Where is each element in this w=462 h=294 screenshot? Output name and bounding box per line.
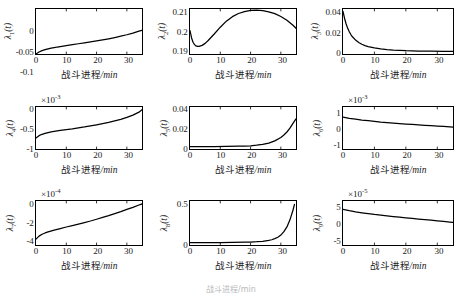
x-tick-label: 20 (247, 247, 256, 256)
y-axis-label-7: λ7(t) (6, 215, 17, 231)
x-tick-label: 10 (216, 151, 225, 160)
y-tick-label: 0.2 (177, 27, 188, 36)
plot-svg-6 (343, 107, 453, 149)
y-axis-exponent-4: ×10-3 (41, 94, 61, 105)
x-tick-label: 30 (278, 151, 287, 160)
x-tick-label: 30 (124, 151, 133, 160)
plot-svg-8 (190, 201, 296, 245)
data-curve-7 (36, 204, 142, 239)
plot-area-3: 0.04 0.02 0 0 10 20 30 (342, 8, 454, 55)
x-tick-label: 10 (371, 56, 380, 65)
y-tick-label: 0 (29, 105, 33, 114)
y-tick-label: 0 (29, 27, 33, 36)
data-curve-3 (343, 11, 453, 51)
x-tick-label: 0 (188, 247, 193, 256)
y-axis-label-5: λ5(t) (160, 120, 171, 136)
chart-panel-8: 0.5 0 0 10 20 30 λ8(t) 战斗进程/min (154, 180, 304, 294)
x-tick-label: 0 (341, 56, 346, 65)
plot-area-4: 0 -0.5 -1 0 10 20 30 (35, 106, 143, 150)
x-tick-label: 0 (34, 247, 39, 256)
plot-svg-5 (190, 107, 296, 149)
x-tick-label: 10 (216, 56, 225, 65)
y-axis-label-6: λ6(t) (313, 120, 324, 136)
data-curve-4 (36, 110, 142, 138)
y-tick-label: 0.04 (173, 105, 188, 114)
y-tick-label: -0.05 (16, 47, 34, 56)
x-tick-label: 10 (371, 247, 380, 256)
y-tick-label: 0 (336, 220, 340, 229)
x-tick-label: 20 (247, 56, 256, 65)
y-axis-label-8: λ8(t) (160, 215, 171, 231)
y-tick-label: -4 (26, 237, 33, 246)
x-axis-label-9: 战斗进程/min (370, 261, 427, 272)
y-tick-label: 0.02 (173, 125, 188, 134)
data-curve-1 (36, 30, 142, 54)
plot-svg-9 (343, 201, 453, 245)
x-axis-label-8: 战斗进程/min (215, 261, 272, 272)
chart-panel-4: 0 -0.5 -1 0 10 20 30 ×10-3 λ4(t) 战斗进程/mi… (0, 88, 154, 180)
y-tick-label: -1 (26, 145, 33, 154)
y-tick-label: 0.04 (326, 7, 341, 16)
x-tick-label: 10 (371, 151, 380, 160)
x-tick-label: 20 (93, 247, 102, 256)
x-tick-label: 30 (435, 151, 444, 160)
x-axis-label-5: 战斗进程/min (215, 165, 272, 176)
x-axis-label-4: 战斗进程/min (61, 165, 118, 176)
y-axis-label-9: λ9(t) (313, 215, 324, 231)
plot-svg-4 (36, 107, 142, 149)
plot-area-6: 1 0 -1 0 10 20 30 (342, 106, 454, 150)
y-axis-label-3: λ3(t) (311, 23, 322, 39)
data-curve-2 (190, 10, 296, 46)
figure-panel-grid: 0 -0.05 -0.1 0 10 20 30 λ1(t) 战斗进程/min (0, 0, 462, 294)
y-tick-label: 0.21 (173, 8, 188, 17)
x-axis-label-2: 战斗进程/min (215, 70, 272, 81)
y-tick-label: 5 (336, 202, 340, 211)
y-tick-label: 0.5 (177, 199, 188, 208)
chart-panel-1: 0 -0.05 -0.1 0 10 20 30 λ1(t) 战斗进程/min (0, 0, 154, 88)
x-tick-label: 0 (188, 56, 193, 65)
y-tick-label: -5 (333, 237, 340, 246)
x-tick-label: 10 (62, 56, 71, 65)
x-tick-label: 30 (278, 56, 287, 65)
data-curve-9 (343, 209, 453, 222)
x-tick-label: 30 (278, 247, 287, 256)
plot-area-7: 0 -2 -4 0 10 20 30 (35, 200, 143, 246)
plot-area-1: 0 -0.05 -0.1 0 10 20 30 (35, 8, 143, 55)
x-tick-label: 10 (216, 247, 225, 256)
x-tick-label: 20 (403, 151, 412, 160)
x-tick-label: 30 (435, 247, 444, 256)
x-tick-label: 0 (34, 151, 39, 160)
y-tick-label: 0.19 (173, 47, 188, 56)
data-curve-8 (190, 204, 294, 242)
x-axis-label-7: 战斗进程/min (61, 261, 118, 272)
chart-panel-6: 1 0 -1 0 10 20 30 ×10-3 λ6(t) 战斗进程/min (304, 88, 462, 180)
y-axis-exponent-6: ×10-3 (348, 94, 368, 105)
data-curve-6 (343, 117, 453, 127)
x-tick-label: 20 (403, 247, 412, 256)
x-tick-label: 0 (341, 247, 346, 256)
y-tick-label: -0.1 (20, 68, 33, 77)
x-tick-label: 30 (124, 56, 133, 65)
x-tick-label: 0 (188, 151, 193, 160)
x-tick-label: 10 (62, 151, 71, 160)
chart-panel-5: 0.04 0.02 0 0 10 20 30 λ5(t) 战斗进程/min (154, 88, 304, 180)
x-tick-label: 30 (124, 247, 133, 256)
plot-svg-7 (36, 201, 142, 245)
x-tick-label: 20 (403, 56, 412, 65)
plot-svg-3 (343, 9, 453, 54)
x-axis-label-6: 战斗进程/min (370, 165, 427, 176)
plot-area-9: 5 0 -5 0 10 20 30 (342, 200, 454, 246)
x-tick-label: 20 (93, 151, 102, 160)
y-axis-label-4: λ4(t) (6, 120, 17, 136)
plot-area-8: 0.5 0 0 10 20 30 (189, 200, 297, 246)
chart-panel-9: 5 0 -5 0 10 20 30 ×10-5 λ9(t) 战斗进程/min (304, 180, 462, 294)
x-axis-label-3: 战斗进程/min (370, 70, 427, 81)
y-axis-label-2: λ2(t) (158, 23, 169, 39)
x-tick-label: 30 (435, 56, 444, 65)
x-tick-label: 0 (34, 56, 39, 65)
x-tick-label: 20 (93, 56, 102, 65)
y-tick-label: 0 (336, 125, 340, 134)
x-tick-label: 20 (247, 151, 256, 160)
figure-footer-note: 战斗进程/min (0, 286, 462, 294)
plot-svg-1 (36, 9, 142, 54)
